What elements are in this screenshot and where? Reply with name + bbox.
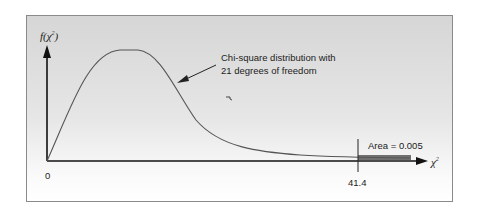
chart-plot [0, 0, 478, 217]
curve-label-line1: Chi-square distribution with [221, 52, 336, 63]
annotation-arrow-icon [177, 75, 189, 83]
origin-label: 0 [45, 170, 50, 181]
x-label-sup: 2 [436, 156, 439, 162]
x-axis-arrow-icon [416, 157, 428, 165]
y-axis-arrow-icon [43, 45, 51, 58]
critical-value-label: 41.4 [348, 177, 367, 188]
y-label-base: f(χ [40, 30, 52, 42]
curve-label-line2: 21 degrees of freedom [221, 65, 317, 76]
x-axis-label: χ2 [431, 154, 439, 168]
y-axis-label: f(χ2) [40, 28, 58, 42]
y-label-close: ) [55, 30, 59, 42]
artifact-mark [226, 97, 232, 100]
area-label: Area = 0.005 [368, 140, 423, 151]
annotation-pointer-line [184, 65, 216, 80]
